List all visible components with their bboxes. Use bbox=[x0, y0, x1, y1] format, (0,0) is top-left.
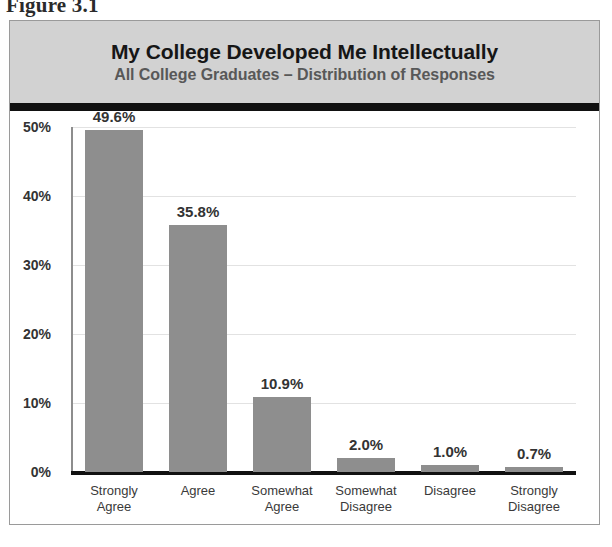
bar-slot: 0.7% bbox=[492, 127, 576, 472]
chart-title: My College Developed Me Intellectually bbox=[111, 41, 498, 64]
chart-figure: My College Developed Me Intellectually A… bbox=[9, 20, 600, 525]
x-axis-labels: Strongly AgreeAgreeSomewhat AgreeSomewha… bbox=[72, 483, 576, 533]
bar-slot: 49.6% bbox=[72, 127, 156, 472]
x-tick-label: Somewhat Disagree bbox=[324, 483, 408, 516]
x-tick-label: Somewhat Agree bbox=[240, 483, 324, 516]
bar[interactable] bbox=[85, 130, 143, 472]
bar-series: 49.6%35.8%10.9%2.0%1.0%0.7% bbox=[72, 127, 576, 472]
bar-value-label: 35.8% bbox=[177, 203, 220, 220]
x-tick-label: Agree bbox=[156, 483, 240, 499]
bar-value-label: 0.7% bbox=[517, 445, 551, 462]
bar[interactable] bbox=[337, 458, 395, 472]
chart-header-band: My College Developed Me Intellectually A… bbox=[10, 21, 599, 103]
bar[interactable] bbox=[421, 465, 479, 472]
y-tick-label: 20% bbox=[5, 326, 51, 342]
y-tick-label: 0% bbox=[5, 464, 51, 480]
bar-slot: 35.8% bbox=[156, 127, 240, 472]
bar-value-label: 1.0% bbox=[433, 443, 467, 460]
y-tick-label: 10% bbox=[5, 395, 51, 411]
chart-subtitle: All College Graduates – Distribution of … bbox=[114, 66, 495, 83]
bar[interactable] bbox=[505, 467, 563, 472]
y-tick-label: 40% bbox=[5, 188, 51, 204]
figure-caption: Figure 3.1 bbox=[6, 0, 99, 18]
bar-slot: 10.9% bbox=[240, 127, 324, 472]
bar[interactable] bbox=[253, 397, 311, 472]
x-tick-label: Disagree bbox=[408, 483, 492, 499]
bar-value-label: 10.9% bbox=[261, 375, 304, 392]
bar[interactable] bbox=[169, 225, 227, 472]
plot-area: 0%10%20%30%40%50% 49.6%35.8%10.9%2.0%1.0… bbox=[10, 111, 599, 524]
x-tick-label: Strongly Disagree bbox=[492, 483, 576, 516]
bar-slot: 2.0% bbox=[324, 127, 408, 472]
y-tick-label: 30% bbox=[5, 257, 51, 273]
bar-value-label: 2.0% bbox=[349, 436, 383, 453]
bar-slot: 1.0% bbox=[408, 127, 492, 472]
y-tick-label: 50% bbox=[5, 119, 51, 135]
x-tick-label: Strongly Agree bbox=[72, 483, 156, 516]
bar-value-label: 49.6% bbox=[93, 108, 136, 125]
